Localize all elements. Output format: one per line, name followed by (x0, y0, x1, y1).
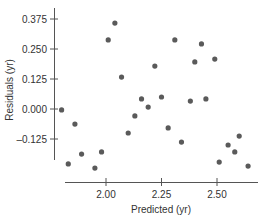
data-point (66, 161, 71, 166)
data-point (245, 164, 250, 169)
data-point (59, 107, 64, 112)
data-point (166, 125, 171, 130)
data-point (119, 74, 124, 79)
y-tick-label: 0.000 (22, 104, 47, 115)
residual-scatter-plot: 0.3750.2500.1250.000–0.125 2.002.252.50 … (0, 0, 264, 221)
y-tick-label: 0.250 (22, 44, 47, 55)
data-point (112, 20, 117, 25)
data-point (188, 98, 193, 103)
data-point (106, 37, 111, 42)
y-tick-label: 0.125 (22, 74, 47, 85)
x-tick-label: 2.00 (96, 189, 116, 200)
x-axis: 2.002.252.50 (65, 178, 258, 200)
x-tick-label: 2.25 (152, 189, 172, 200)
data-points (59, 20, 251, 170)
data-point (72, 122, 77, 127)
x-tick-label: 2.50 (207, 189, 227, 200)
data-point (126, 130, 131, 135)
data-point (203, 96, 208, 101)
data-point (179, 140, 184, 145)
y-axis: 0.3750.2500.1250.000–0.125 (16, 8, 58, 160)
data-point (99, 149, 104, 154)
data-point (159, 94, 164, 99)
y-tick-label: 0.375 (22, 14, 47, 25)
data-point (237, 134, 242, 139)
data-point (79, 152, 84, 157)
data-point (217, 159, 222, 164)
data-point (132, 113, 137, 118)
data-point (212, 56, 217, 61)
data-point (192, 59, 197, 64)
data-point (146, 104, 151, 109)
y-ticks: 0.3750.2500.1250.000–0.125 (16, 14, 58, 145)
y-axis-title: Residuals (yr) (4, 59, 15, 121)
x-ticks: 2.002.252.50 (96, 178, 227, 200)
data-point (226, 142, 231, 147)
data-point (172, 37, 177, 42)
data-point (92, 165, 97, 170)
x-axis-title: Predicted (yr) (131, 204, 191, 215)
data-point (199, 41, 204, 46)
data-point (152, 63, 157, 68)
y-tick-label: –0.125 (16, 134, 47, 145)
data-point (232, 149, 237, 154)
data-point (139, 96, 144, 101)
